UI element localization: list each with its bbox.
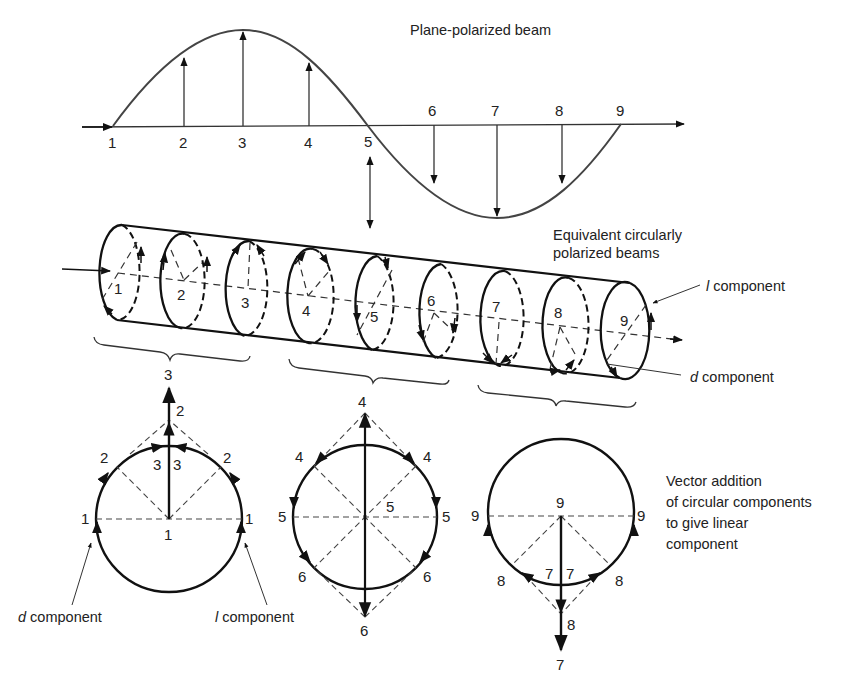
svg-text:8: 8 <box>554 304 562 321</box>
vector-diagram-2: 4 4 4 5 5 5 6 6 6 <box>278 393 450 639</box>
circular-title-line2: polarized beams <box>553 245 659 261</box>
svg-text:9: 9 <box>556 494 564 511</box>
svg-text:5: 5 <box>386 498 394 515</box>
point-label-8: 8 <box>555 102 563 119</box>
circular-title-line1: Equivalent circularly <box>553 227 683 243</box>
ellipse-6: 6 <box>419 264 458 358</box>
svg-text:6: 6 <box>360 622 368 639</box>
tube-output-arrow-icon <box>670 339 682 340</box>
svg-text:7: 7 <box>556 656 564 673</box>
point-label-3: 3 <box>238 134 246 151</box>
vd1-l-component-label: l component <box>215 609 294 625</box>
vector-diagram-1: 3 2 2 2 3 3 1 1 1 d component l componen… <box>18 366 294 625</box>
point-label-6: 6 <box>428 102 436 119</box>
vector-addition-caption: Vector addition of circular components t… <box>666 473 812 552</box>
svg-text:component: component <box>666 536 738 552</box>
svg-text:of circular components: of circular components <box>666 494 812 510</box>
ellipse-3: 3 <box>226 241 268 336</box>
svg-text:3: 3 <box>173 456 181 473</box>
svg-text:to give linear: to give linear <box>666 515 748 531</box>
svg-text:5: 5 <box>278 508 286 525</box>
d-component-label: d component <box>690 369 774 385</box>
ellipse-5: 5 <box>355 256 393 350</box>
svg-text:5: 5 <box>370 308 378 325</box>
svg-text:8: 8 <box>497 572 505 589</box>
svg-text:2: 2 <box>223 449 231 466</box>
polarization-diagram: Plane-polarized beam 1 2 3 4 5 6 7 8 9 E… <box>0 0 867 692</box>
group-bracket-2 <box>289 359 449 384</box>
svg-text:4: 4 <box>423 448 431 465</box>
ellipse-1: 1 <box>99 225 141 320</box>
svg-text:2: 2 <box>177 286 185 303</box>
propagation-axis <box>82 124 684 127</box>
plane-polarized-beam: Plane-polarized beam 1 2 3 4 5 6 7 8 9 <box>82 22 684 228</box>
svg-text:8: 8 <box>567 616 575 633</box>
svg-text:6: 6 <box>298 568 306 585</box>
point-label-4: 4 <box>304 134 312 151</box>
svg-text:4: 4 <box>358 393 366 410</box>
svg-text:1: 1 <box>114 280 122 297</box>
svg-text:6: 6 <box>427 292 435 309</box>
l-component-pointer <box>653 285 700 303</box>
svg-text:1: 1 <box>245 510 253 527</box>
svg-text:9: 9 <box>471 507 479 524</box>
svg-text:9: 9 <box>620 312 628 329</box>
svg-text:9: 9 <box>637 507 645 524</box>
sine-wave <box>113 30 621 218</box>
svg-text:4: 4 <box>302 302 310 319</box>
svg-text:2: 2 <box>100 449 108 466</box>
svg-text:3: 3 <box>241 294 249 311</box>
svg-text:2: 2 <box>176 402 184 419</box>
svg-text:6: 6 <box>423 568 431 585</box>
tube-input-arrow-icon <box>62 269 110 271</box>
plane-beam-title: Plane-polarized beam <box>410 22 551 38</box>
svg-text:7: 7 <box>566 565 574 582</box>
point-label-5: 5 <box>364 133 372 150</box>
group-bracket-3 <box>478 385 636 407</box>
point-label-7: 7 <box>491 102 499 119</box>
svg-text:7: 7 <box>492 298 500 315</box>
svg-text:5: 5 <box>442 508 450 525</box>
d-component-pointer <box>607 364 681 375</box>
point-label-2: 2 <box>179 134 187 151</box>
svg-text:7: 7 <box>545 565 553 582</box>
svg-text:8: 8 <box>615 572 623 589</box>
svg-text:1: 1 <box>164 526 172 543</box>
point-label-9: 9 <box>616 102 624 119</box>
svg-text:4: 4 <box>295 448 303 465</box>
point-label-1: 1 <box>108 134 116 151</box>
group-bracket-1 <box>94 337 250 361</box>
svg-text:1: 1 <box>81 510 89 527</box>
vector-diagram-3: 9 9 9 7 7 8 8 8 7 <box>471 439 645 673</box>
svg-text:Vector addition: Vector addition <box>666 473 762 489</box>
ellipse-8: 8 <box>542 277 588 373</box>
vd1-d-component-label: d component <box>18 609 102 625</box>
svg-text:3: 3 <box>153 456 161 473</box>
svg-text:3: 3 <box>164 366 172 383</box>
l-component-label: l component <box>706 278 785 294</box>
